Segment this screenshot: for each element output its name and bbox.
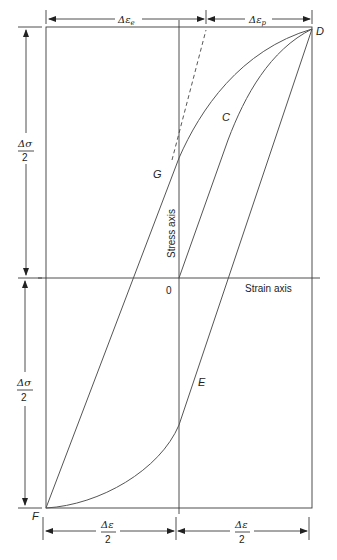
left-dimension: Δσ 2 Δσ 2 xyxy=(16,27,42,508)
point-label-d: D xyxy=(316,25,324,37)
svg-text:Δε: Δε xyxy=(100,519,114,530)
elastic-tangent-dashed xyxy=(172,30,206,160)
point-label-c: C xyxy=(222,111,230,123)
point-label-e: E xyxy=(198,376,206,388)
point-label-f: F xyxy=(32,510,40,522)
svg-text:Δεe: Δεe xyxy=(117,14,135,27)
svg-text:Δσ: Δσ xyxy=(17,138,33,149)
bottom-dimension: Δε 2 Δε 2 xyxy=(43,517,309,545)
svg-text:2: 2 xyxy=(105,534,111,545)
svg-text:Δσ: Δσ xyxy=(16,377,32,388)
svg-text:2: 2 xyxy=(21,392,27,403)
svg-text:Δε: Δε xyxy=(234,519,248,530)
stress-axis-label: Stress axis xyxy=(166,209,177,258)
svg-text:2: 2 xyxy=(239,534,245,545)
hysteresis-loop-diagram: D C G E F 0 Stress axis Strain axis Δεe … xyxy=(0,0,337,560)
svg-text:2: 2 xyxy=(22,152,28,163)
point-label-g: G xyxy=(153,168,162,180)
origin-label: 0 xyxy=(166,285,172,296)
initial-loading-curve xyxy=(179,29,312,278)
svg-text:Δεp: Δεp xyxy=(248,14,267,27)
strain-axis-label: Strain axis xyxy=(245,283,292,294)
